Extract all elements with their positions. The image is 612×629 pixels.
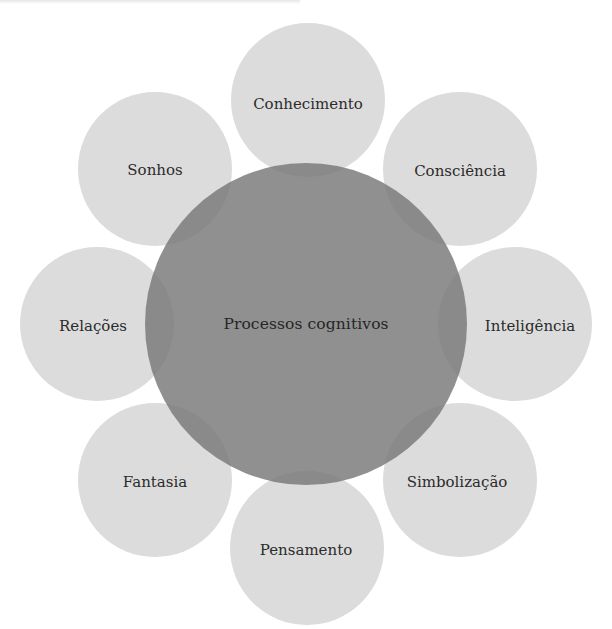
cognitive-processes-diagram: Processos cognitivos Conhecimento Consci… (0, 0, 612, 629)
satellite-label-simbolizacao: Simbolização (407, 473, 508, 491)
satellite-label-conhecimento: Conhecimento (253, 95, 363, 113)
satellite-label-relacoes: Relações (59, 317, 127, 335)
center-circle: Processos cognitivos (145, 163, 467, 485)
center-label: Processos cognitivos (223, 315, 388, 333)
satellite-label-sonhos: Sonhos (127, 161, 182, 179)
satellite-label-inteligencia: Inteligência (485, 317, 575, 335)
satellite-label-consciencia: Consciência (414, 162, 506, 180)
satellite-label-pensamento: Pensamento (260, 541, 352, 559)
satellite-label-fantasia: Fantasia (123, 473, 187, 491)
